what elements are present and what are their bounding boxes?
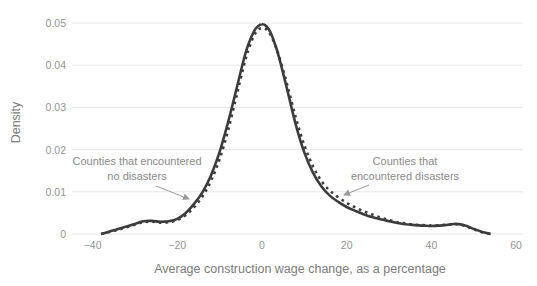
y-tick-label: 0.05 (26, 17, 66, 29)
disasters-annotation: Counties that encountered disasters (310, 154, 500, 184)
y-axis-title: Density (9, 73, 26, 173)
x-tick-label: 0 (240, 239, 284, 251)
density-chart: Density 00.010.020.030.040.05−40−2002040… (0, 0, 537, 286)
disasters-annotation-arrow (344, 185, 369, 195)
disasters-annotation-line2: encountered disasters (351, 170, 459, 182)
x-axis-title: Average construction wage change, as a p… (100, 262, 500, 276)
x-tick-label: 20 (325, 239, 369, 251)
disasters-annotation-line1: Counties that (373, 155, 438, 167)
no-disasters-annotation-arrow (156, 186, 189, 199)
x-tick-label: −40 (71, 239, 115, 251)
x-tick-label: −20 (155, 239, 199, 251)
x-tick-label: 40 (409, 239, 453, 251)
y-tick-label: 0.01 (26, 186, 66, 198)
no-disasters-annotation: Counties that encountered no disasters (42, 154, 232, 184)
y-tick-label: 0.03 (26, 101, 66, 113)
y-tick-label: 0.04 (26, 59, 66, 71)
disasters-curve (101, 28, 491, 234)
y-tick-label: 0 (26, 228, 66, 240)
x-tick-label: 60 (494, 239, 537, 251)
no-disasters-annotation-line2: no disasters (107, 170, 166, 182)
no-disasters-annotation-line1: Counties that encountered (72, 155, 201, 167)
no-disasters-curve (101, 24, 491, 234)
